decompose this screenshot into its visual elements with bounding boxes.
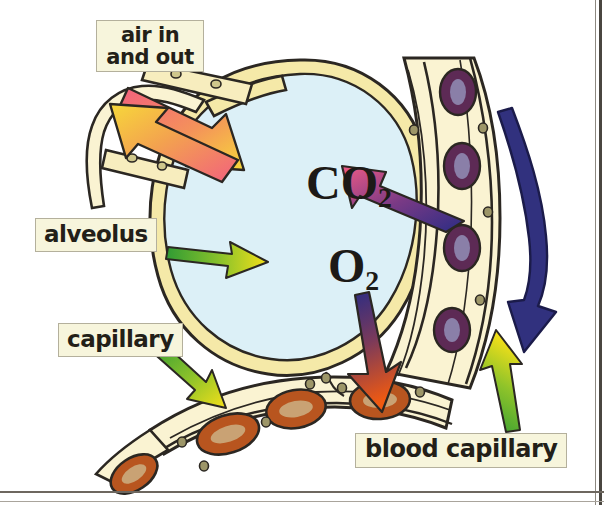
endothelial-nucleus <box>444 143 480 189</box>
blood-capillary-pointer-arrow <box>480 330 522 432</box>
co2-label: CO2 <box>306 155 392 210</box>
page-frame-bottom-inner <box>0 501 604 502</box>
label-blood-capillary: blood capillary <box>355 433 567 468</box>
label-capillary: capillary <box>58 323 183 357</box>
label-air-in-and-out: air in and out <box>96 20 204 72</box>
diagram-canvas: CO2 O2 air in and out alveolus capillary… <box>0 0 604 505</box>
blood-flow-arrow <box>498 108 556 352</box>
endothelial-nucleus <box>434 308 470 352</box>
alveolus-illustration <box>0 0 604 505</box>
endothelial-nucleus <box>440 69 476 115</box>
o2-label: O2 <box>328 238 379 293</box>
page-frame-right-inner <box>595 0 596 505</box>
page-frame-bottom <box>0 491 604 493</box>
page-frame-right <box>599 0 602 505</box>
label-alveolus: alveolus <box>35 218 157 252</box>
endothelial-nucleus <box>444 225 480 271</box>
